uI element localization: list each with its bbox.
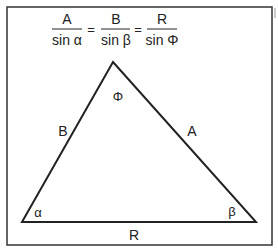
side-label-b: B xyxy=(58,123,67,139)
formula-denominator-a: sin α xyxy=(52,32,82,48)
law-of-sines-diagram: A sin α = B sin β = R sin Φ B A R α β Φ xyxy=(0,0,278,252)
triangle xyxy=(22,62,256,222)
formula-denominator-b: sin β xyxy=(101,32,131,48)
angle-label-beta: β xyxy=(228,204,235,219)
angle-label-alpha: α xyxy=(34,205,42,220)
equals-sign: = xyxy=(134,22,142,37)
side-label-r: R xyxy=(129,227,139,243)
formula-numerator-a: A xyxy=(62,11,72,27)
angle-label-phi: Φ xyxy=(113,89,123,104)
equals-sign: = xyxy=(87,22,95,37)
formula-numerator-b: B xyxy=(111,11,120,27)
formula: A sin α = B sin β = R sin Φ xyxy=(52,11,178,48)
formula-numerator-r: R xyxy=(157,11,167,27)
side-label-a: A xyxy=(187,123,197,139)
formula-denominator-r: sin Φ xyxy=(146,32,179,48)
